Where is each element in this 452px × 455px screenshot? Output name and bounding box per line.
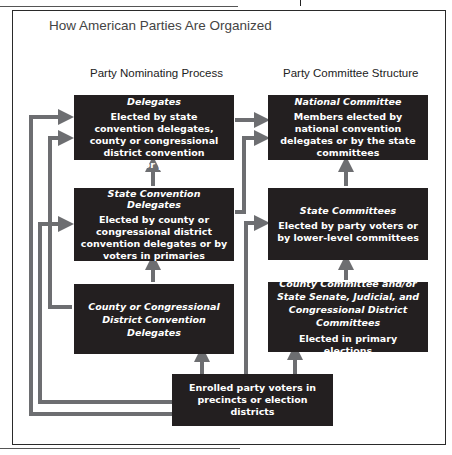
box-heading: National Convention Delegates xyxy=(80,85,228,107)
box-state-convention-delegates: State Convention Delegates Elected by co… xyxy=(74,188,234,261)
box-state-committees: State Committees Elected by party voters… xyxy=(268,188,428,260)
box-body: Elected by state convention delegates, c… xyxy=(80,111,228,171)
box-body: Elected by party voters or by lower-leve… xyxy=(274,220,422,244)
box-enrolled-party-voters: Enrolled party voters in precincts or el… xyxy=(172,374,333,426)
box-body: Elected in primary elections xyxy=(274,333,422,357)
box-county-district-convention-delegates: County or Congressional District Convent… xyxy=(74,284,234,354)
box-body: Elected by county or congressional distr… xyxy=(80,214,228,262)
box-county-committee: County Committee and/or State Senate, Ju… xyxy=(268,282,428,352)
box-body: Members elected by national convention d… xyxy=(274,111,422,159)
box-heading: State Convention Delegates xyxy=(80,188,228,210)
box-heading: County Committee and/or State Senate, Ju… xyxy=(274,277,422,329)
box-heading: National Committee xyxy=(295,96,402,107)
box-heading: State Committees xyxy=(300,205,396,216)
box-national-committee: National Committee Members elected by na… xyxy=(268,95,428,160)
box-body: Enrolled party voters in precincts or el… xyxy=(178,382,327,418)
box-heading: County or Congressional District Convent… xyxy=(80,300,228,339)
box-national-convention-delegates: National Convention Delegates Elected by… xyxy=(74,95,234,160)
